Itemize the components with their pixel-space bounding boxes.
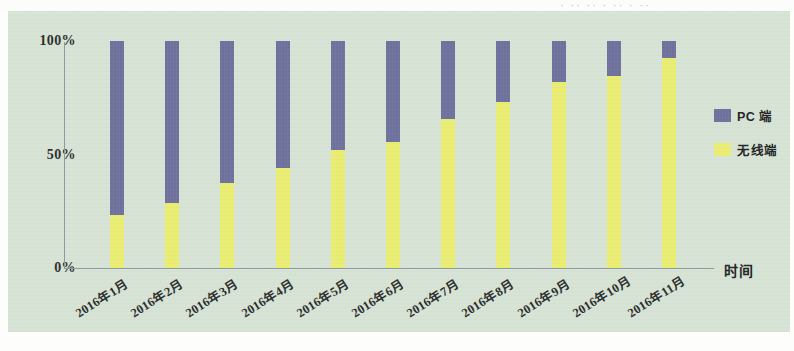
x-tick-label: 2016年8月 xyxy=(457,274,517,322)
legend-item[interactable]: 无线端 xyxy=(714,134,790,164)
legend-swatch-pc xyxy=(714,109,731,122)
bar-segment-wireless[interactable] xyxy=(220,183,234,268)
scanned-chart-page: · ·· ·· · ·· · ·· 100%50%0% 2016年1月2016年… xyxy=(0,0,794,351)
legend-swatch-wireless xyxy=(714,143,731,156)
x-tick-label: 2016年11月 xyxy=(623,270,688,321)
bar-segment-wireless[interactable] xyxy=(496,102,510,268)
bar-group[interactable] xyxy=(607,41,621,268)
legend-item[interactable]: PC 端 xyxy=(714,100,790,130)
x-tick-label: 2016年5月 xyxy=(292,274,352,322)
bar-segment-pc[interactable] xyxy=(220,41,234,183)
plot-area xyxy=(64,42,714,269)
chart-canvas: 100%50%0% 2016年1月2016年2月2016年3月2016年4月20… xyxy=(8,11,790,332)
bar-segment-wireless[interactable] xyxy=(165,203,179,268)
bar-group[interactable] xyxy=(276,41,290,268)
bar-segment-pc[interactable] xyxy=(276,41,290,168)
bar-segment-wireless[interactable] xyxy=(386,142,400,268)
x-tick-label: 2016年1月 xyxy=(71,274,131,322)
bar-group[interactable] xyxy=(552,41,566,268)
bar-segment-pc[interactable] xyxy=(607,41,621,76)
legend-label: PC 端 xyxy=(737,106,773,125)
bar-group[interactable] xyxy=(496,41,510,268)
bar-segment-pc[interactable] xyxy=(386,41,400,142)
x-tick-label: 2016年6月 xyxy=(347,274,407,322)
bar-segment-pc[interactable] xyxy=(331,41,345,150)
x-axis-title: 时间 xyxy=(724,260,754,280)
bar-group[interactable] xyxy=(110,41,124,268)
bar-segment-pc[interactable] xyxy=(552,41,566,82)
bar-segment-wireless[interactable] xyxy=(331,150,345,268)
scan-margin-right xyxy=(790,11,794,351)
x-tick-label: 2016年9月 xyxy=(513,274,573,322)
bar-segment-pc[interactable] xyxy=(165,41,179,203)
bar-segment-wireless[interactable] xyxy=(110,215,124,268)
legend-label: 无线端 xyxy=(737,140,778,159)
bar-segment-wireless[interactable] xyxy=(552,82,566,268)
bar-segment-pc[interactable] xyxy=(110,41,124,215)
bar-segment-wireless[interactable] xyxy=(607,76,621,268)
cropped-header-text: · ·· ·· · ·· · ·· xyxy=(0,0,794,11)
x-tick-label: 2016年10月 xyxy=(568,270,634,321)
bar-group[interactable] xyxy=(441,41,455,268)
bar-segment-pc[interactable] xyxy=(496,41,510,102)
scan-margin-left xyxy=(0,11,8,351)
bar-segment-wireless[interactable] xyxy=(441,119,455,268)
x-tick-label: 2016年3月 xyxy=(181,274,241,322)
x-tick-label: 2016年7月 xyxy=(402,274,462,322)
bar-group[interactable] xyxy=(331,41,345,268)
chart-legend: PC 端无线端 xyxy=(714,100,790,168)
bar-group[interactable] xyxy=(662,41,676,268)
x-tick-label: 2016年4月 xyxy=(237,274,297,322)
bar-group[interactable] xyxy=(220,41,234,268)
bar-segment-wireless[interactable] xyxy=(276,168,290,268)
x-tick-label: 2016年2月 xyxy=(126,274,186,322)
bar-group[interactable] xyxy=(386,41,400,268)
scan-margin-bottom xyxy=(0,332,794,351)
bar-segment-wireless[interactable] xyxy=(662,58,676,268)
bar-segment-pc[interactable] xyxy=(441,41,455,119)
bar-segment-pc[interactable] xyxy=(662,41,676,58)
bar-group[interactable] xyxy=(165,41,179,268)
